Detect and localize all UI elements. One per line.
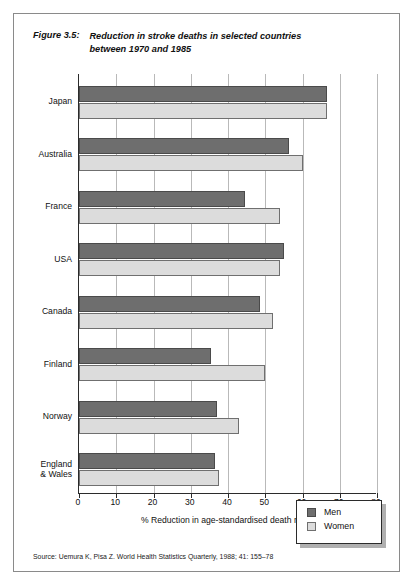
category-label: Canada	[42, 306, 72, 317]
bar-women[interactable]	[79, 208, 280, 224]
bar-women[interactable]	[79, 470, 219, 486]
figure-frame: Figure 3.5: Reduction in stroke deaths i…	[13, 13, 400, 572]
legend-item-women: Women	[307, 521, 381, 531]
bar-group: Australia	[79, 138, 376, 171]
bar-fill	[79, 418, 239, 434]
figure-title: Reduction in stroke deaths in selected c…	[89, 30, 301, 55]
bar-women[interactable]	[79, 313, 273, 329]
plot-area: JapanAustraliaFranceUSACanadaFinlandNorw…	[78, 74, 376, 494]
x-gridline	[377, 74, 378, 493]
bar-men[interactable]	[79, 243, 284, 259]
bar-fill	[79, 348, 211, 364]
bar-men[interactable]	[79, 191, 245, 207]
bar-group: France	[79, 191, 376, 224]
bar-men[interactable]	[79, 296, 260, 312]
legend-swatch-women-icon	[307, 522, 316, 531]
bar-fill	[79, 470, 219, 486]
figure-title-line-1: Reduction in stroke deaths in selected c…	[89, 30, 301, 43]
x-axis-tick-label: 20	[148, 497, 158, 507]
bar-fill	[79, 313, 273, 329]
category-label: Finland	[44, 359, 72, 370]
chart-plot-wrapper: JapanAustraliaFranceUSACanadaFinlandNorw…	[64, 74, 389, 499]
bar-fill	[79, 243, 284, 259]
bar-women[interactable]	[79, 418, 239, 434]
x-axis-tick-label: 30	[185, 497, 195, 507]
bar-fill	[79, 103, 327, 119]
bar-group: Norway	[79, 401, 376, 434]
bar-women[interactable]	[79, 365, 265, 381]
bar-fill	[79, 401, 217, 417]
category-label: Australia	[39, 149, 72, 160]
x-axis-tick-label: 40	[222, 497, 232, 507]
legend-label-men: Men	[324, 507, 341, 517]
figure-source: Source: Uemura K, Pisa Z. World Health S…	[33, 553, 273, 560]
bar-men[interactable]	[79, 453, 215, 469]
bar-women[interactable]	[79, 103, 327, 119]
bar-men[interactable]	[79, 138, 289, 154]
bar-group: USA	[79, 243, 376, 276]
bar-fill	[79, 453, 215, 469]
x-axis-tick-label: 10	[110, 497, 120, 507]
bar-men[interactable]	[79, 401, 217, 417]
figure-title-block: Figure 3.5: Reduction in stroke deaths i…	[33, 30, 378, 55]
bar-fill	[79, 138, 289, 154]
bar-men[interactable]	[79, 86, 327, 102]
bar-fill	[79, 208, 280, 224]
category-label: England& Wales	[40, 459, 72, 480]
bar-group: Finland	[79, 348, 376, 381]
bar-group: England& Wales	[79, 453, 376, 486]
bar-fill	[79, 365, 265, 381]
bar-women[interactable]	[79, 260, 280, 276]
bar-fill	[79, 191, 245, 207]
bar-fill	[79, 155, 303, 171]
bar-fill	[79, 86, 327, 102]
category-label: USA	[54, 254, 72, 265]
chart-legend: Men Women	[296, 500, 382, 544]
category-label: Japan	[49, 96, 72, 107]
legend-item-men: Men	[307, 507, 381, 517]
legend-label-women: Women	[324, 521, 354, 531]
bar-women[interactable]	[79, 155, 303, 171]
category-label: Norway	[43, 411, 72, 422]
bar-fill	[79, 260, 280, 276]
figure-title-line-2: between 1970 and 1985	[89, 43, 301, 56]
x-axis-tick-label: 50	[259, 497, 269, 507]
figure-number: Figure 3.5:	[33, 30, 79, 55]
x-axis-tick-label: 0	[76, 497, 81, 507]
category-label: France	[45, 201, 72, 212]
legend-swatch-men-icon	[307, 508, 316, 517]
bar-group: Canada	[79, 296, 376, 329]
bar-group: Japan	[79, 86, 376, 119]
bar-men[interactable]	[79, 348, 211, 364]
bar-fill	[79, 296, 260, 312]
